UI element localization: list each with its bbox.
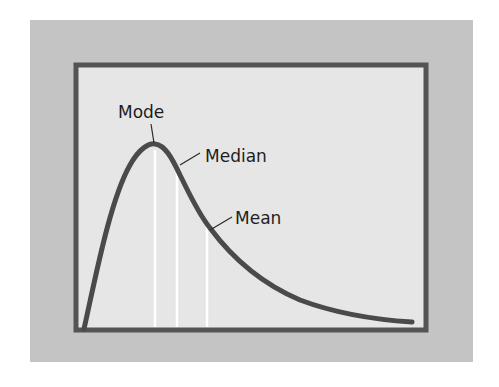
median-label: Median — [205, 146, 267, 166]
mode-label: Mode — [118, 102, 164, 122]
skewed-distribution-diagram: Mode Median Mean — [0, 0, 499, 387]
mean-label: Mean — [235, 208, 281, 228]
